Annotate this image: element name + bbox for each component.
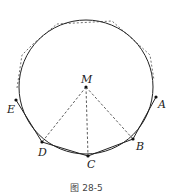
point-e (14, 98, 17, 101)
label-d: D (37, 146, 47, 159)
figure-caption: 图 28-5 (0, 181, 173, 194)
label-e: E (6, 103, 15, 116)
label-a: A (157, 98, 166, 111)
circle-tangent-polygon-diagram: M A B C D E (0, 0, 173, 196)
label-c: C (87, 158, 96, 171)
label-m: M (80, 73, 93, 86)
point-d (40, 140, 43, 143)
tangent-polygon (16, 97, 156, 156)
dashed-radius-mb (86, 87, 133, 139)
dashed-radius-md (42, 87, 86, 142)
label-b: B (135, 140, 144, 153)
dashed-radius-mc (86, 87, 88, 156)
point-b (131, 137, 134, 140)
